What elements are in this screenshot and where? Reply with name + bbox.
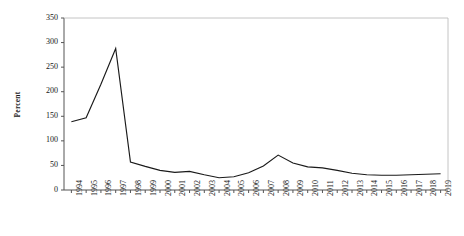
data-series-line: [71, 48, 440, 177]
plot-area: [0, 0, 464, 236]
axis-lines: [64, 18, 448, 190]
percent-line-chart: Percent 050100150200250300350 1994199519…: [0, 0, 464, 236]
